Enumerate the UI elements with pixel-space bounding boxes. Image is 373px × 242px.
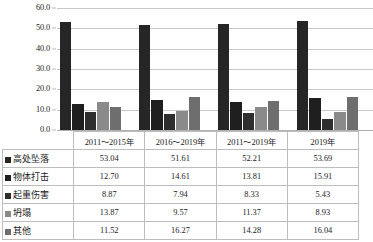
table-cell-value: 7.94 [145, 186, 216, 204]
legend-row-header: 其他 [3, 222, 74, 240]
y-axis-tick-label: 40.0 [0, 45, 50, 53]
legend-swatch-icon [5, 175, 11, 181]
table-column-header: 2011～2019年 [216, 132, 287, 150]
bar-group [136, 8, 215, 130]
table-cell-value: 53.69 [287, 150, 358, 168]
bar [255, 107, 267, 130]
bar [139, 25, 151, 130]
y-axis-tick-mark [52, 109, 56, 110]
table-cell-value: 51.61 [145, 150, 216, 168]
bar-series-layer [57, 8, 373, 130]
legend-label: 物体打击 [13, 172, 49, 182]
legend-swatch-icon [5, 193, 11, 199]
legend-label: 起重伤害 [13, 190, 49, 200]
bar-group [57, 8, 136, 130]
grouped-bar-chart-with-data-table: 60.050.040.030.020.010.00.0 2011～2015年20… [0, 0, 373, 242]
table-cell-value: 11.37 [216, 204, 287, 222]
legend-row-header: 坍塌 [3, 204, 74, 222]
y-axis: 60.050.040.030.020.010.00.0 [0, 8, 50, 130]
table-header: 2011～2015年2016～2019年2011～2019年2019年 [3, 132, 359, 150]
bar [85, 112, 97, 130]
bar [322, 119, 334, 130]
bar [151, 100, 163, 130]
plot-area [57, 8, 373, 130]
chart-plot-region: 60.050.040.030.020.010.00.0 [0, 0, 373, 136]
table-corner-cell [3, 132, 74, 150]
y-axis-tick-mark [52, 89, 56, 90]
table-cell-value: 12.70 [74, 168, 145, 186]
y-axis-tick-mark [52, 28, 56, 29]
table-row: 起重伤害8.877.948.335.43 [3, 186, 359, 204]
table-row: 坍塌13.879.5711.378.93 [3, 204, 359, 222]
bar [268, 101, 280, 130]
bar [309, 98, 321, 130]
bar [189, 97, 201, 130]
legend-label: 坍塌 [13, 208, 31, 218]
table-cell-value: 53.04 [74, 150, 145, 168]
bar [297, 21, 309, 130]
bar [97, 102, 109, 130]
table-row: 高处坠落53.0451.6152.2153.69 [3, 150, 359, 168]
legend-label: 高处坠落 [13, 154, 49, 164]
table-cell-value: 13.87 [74, 204, 145, 222]
bar [230, 102, 242, 130]
table-cell-value: 14.61 [145, 168, 216, 186]
bar [164, 114, 176, 130]
legend-row-header: 物体打击 [3, 168, 74, 186]
table-body: 高处坠落53.0451.6152.2153.69物体打击12.7014.6113… [3, 150, 359, 240]
bar [243, 113, 255, 130]
table-cell-value: 8.33 [216, 186, 287, 204]
y-axis-tick-mark [52, 69, 56, 70]
bar-group [294, 8, 373, 130]
bar [347, 97, 359, 130]
table-row: 物体打击12.7014.6113.8115.91 [3, 168, 359, 186]
table-cell-value: 11.52 [74, 222, 145, 240]
bar-group [215, 8, 294, 130]
legend-swatch-icon [5, 157, 11, 163]
table-row: 其他11.5216.2714.2816.04 [3, 222, 359, 240]
table-column-header: 2011～2015年 [74, 132, 145, 150]
legend-swatch-icon [5, 229, 11, 235]
table-column-header: 2019年 [287, 132, 358, 150]
table-header-row: 2011～2015年2016～2019年2011～2019年2019年 [3, 132, 359, 150]
y-axis-tick-label: 60.0 [0, 4, 50, 12]
table-column-header: 2016～2019年 [145, 132, 216, 150]
y-axis-tick-mark [52, 8, 56, 9]
table-cell-value: 9.57 [145, 204, 216, 222]
table-cell-value: 8.93 [287, 204, 358, 222]
table-cell-value: 13.81 [216, 168, 287, 186]
y-axis-tick-label: 50.0 [0, 24, 50, 32]
bar [176, 111, 188, 130]
y-axis-tick-label: 20.0 [0, 85, 50, 93]
bar [218, 24, 230, 130]
table-cell-value: 8.87 [74, 186, 145, 204]
bar [334, 112, 346, 130]
y-axis-tick-mark [52, 48, 56, 49]
y-axis-tick-label: 10.0 [0, 106, 50, 114]
legend-row-header: 高处坠落 [3, 150, 74, 168]
table-cell-value: 15.91 [287, 168, 358, 186]
bar [60, 22, 72, 130]
table-cell-value: 14.28 [216, 222, 287, 240]
bar [72, 104, 84, 130]
legend-label: 其他 [13, 226, 31, 236]
bar [110, 107, 122, 130]
y-axis-tick-label: 30.0 [0, 65, 50, 73]
table-cell-value: 5.43 [287, 186, 358, 204]
table-cell-value: 16.27 [145, 222, 216, 240]
legend-row-header: 起重伤害 [3, 186, 74, 204]
table-cell-value: 52.21 [216, 150, 287, 168]
legend-swatch-icon [5, 211, 11, 217]
chart-data-table: 2011～2015年2016～2019年2011～2019年2019年 高处坠落… [2, 131, 359, 240]
table-cell-value: 16.04 [287, 222, 358, 240]
